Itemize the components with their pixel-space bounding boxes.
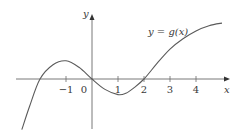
x-tick-label: 4: [193, 84, 199, 95]
x-tick-label: 3: [167, 84, 173, 95]
axes: [16, 14, 230, 129]
x-tick-label: −1: [59, 84, 74, 95]
x-tick-label: 2: [141, 84, 147, 95]
y-axis-label: y: [82, 8, 89, 19]
x-tick-label: 0: [81, 84, 87, 95]
y-axis-arrow-icon: [90, 14, 95, 20]
curve-g-of-x: [22, 23, 222, 130]
x-tick-label: 1: [115, 84, 121, 95]
function-graph: −101234 y x y = g(x): [0, 0, 240, 137]
x-axis-label: x: [224, 84, 230, 95]
x-axis-arrow-icon: [224, 77, 230, 82]
function-label: y = g(x): [147, 26, 188, 37]
